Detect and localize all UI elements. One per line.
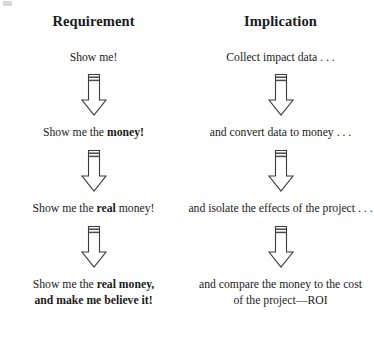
step-text-segment: money!: [107, 126, 144, 139]
step-text-segment: money!: [116, 202, 155, 215]
step-text-segment: and make me believe it!: [34, 294, 152, 307]
step-right-1: Collect impact data . . .: [226, 50, 334, 66]
arrow-left-2: [71, 148, 117, 194]
column-implication: Implication Collect impact data . . . an…: [187, 0, 374, 337]
arrow-right-1: [258, 72, 304, 118]
arrow-left-3: [71, 224, 117, 270]
arrow-left-1: [71, 72, 117, 118]
column-requirement: Requirement Show me! Show me the money!: [0, 0, 187, 337]
step-text-segment: and compare the money to the cost of the…: [199, 278, 362, 307]
step-text-segment: real money,: [97, 278, 155, 291]
step-left-4: Show me the real money,and make me belie…: [6, 277, 181, 309]
step-text-segment: Show me the: [33, 278, 97, 291]
step-text-segment: Show me!: [70, 51, 118, 64]
step-right-2: and convert data to money . . .: [210, 125, 352, 141]
down-arrow-icon: [258, 72, 304, 118]
step-left-3: Show me the real money!: [33, 201, 155, 217]
column-header-requirement: Requirement: [52, 14, 134, 29]
step-right-4: and compare the money to the cost of the…: [193, 277, 368, 309]
down-arrow-icon: [71, 148, 117, 194]
step-text-segment: Show me the: [43, 126, 107, 139]
step-text-segment: and isolate the effects of the project .…: [188, 202, 372, 215]
arrow-right-2: [258, 148, 304, 194]
figure-root: Requirement Show me! Show me the money!: [0, 0, 374, 337]
column-header-implication: Implication: [244, 14, 317, 29]
step-text-segment: and convert data to money . . .: [210, 126, 352, 139]
step-left-2: Show me the money!: [43, 125, 144, 141]
down-arrow-icon: [258, 148, 304, 194]
step-text-segment: Show me the: [33, 202, 97, 215]
down-arrow-icon: [71, 224, 117, 270]
step-right-3: and isolate the effects of the project .…: [188, 201, 372, 217]
down-arrow-icon: [71, 72, 117, 118]
step-text-segment: real: [97, 202, 116, 215]
down-arrow-icon: [258, 224, 304, 270]
step-text-segment: Collect impact data . . .: [226, 51, 334, 64]
two-column-flow: Requirement Show me! Show me the money!: [0, 0, 374, 337]
arrow-right-3: [258, 224, 304, 270]
step-left-1: Show me!: [70, 50, 118, 66]
